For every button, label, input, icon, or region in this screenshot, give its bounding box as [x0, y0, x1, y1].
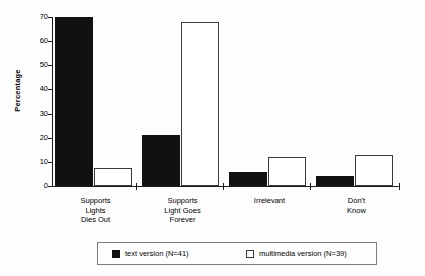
- y-axis-tick-label: 60: [40, 36, 48, 45]
- plot-area: [52, 17, 400, 186]
- x-axis-group-label: Supports Lights Dies Out: [52, 196, 139, 225]
- bar: [181, 22, 219, 186]
- y-axis-title: Percentage: [13, 56, 22, 126]
- legend-swatch-icon: [112, 250, 120, 258]
- bar: [55, 17, 93, 186]
- x-axis-separator: [136, 183, 137, 190]
- legend-swatch-icon: [246, 250, 254, 258]
- x-axis-separator: [223, 183, 224, 190]
- y-axis-tick-label: 30: [40, 109, 48, 118]
- bar: [355, 155, 393, 186]
- y-axis-tick-label: 40: [40, 84, 48, 93]
- legend-entry: text version (N=41): [112, 249, 189, 258]
- x-axis-line: [52, 186, 400, 187]
- bar: [268, 157, 306, 186]
- y-axis-tick-label: 50: [40, 60, 48, 69]
- x-axis-group-label: Don't Know: [313, 196, 400, 215]
- x-axis-separator: [399, 183, 400, 190]
- bar: [229, 172, 267, 186]
- bar-chart: Percentage 706050403020100 Supports Ligh…: [0, 0, 425, 276]
- x-axis-group-label: Irrelevant: [226, 196, 313, 206]
- y-axis-tick-label: 70: [40, 12, 48, 21]
- legend-entry: multimedia version (N=39): [246, 249, 347, 258]
- legend: text version (N=41)multimedia version (N…: [97, 242, 377, 265]
- y-axis-tick-label: 10: [40, 157, 48, 166]
- x-axis-separator: [310, 183, 311, 190]
- x-axis-group-label: Supports Light Goes Forever: [139, 196, 226, 225]
- bar: [94, 168, 132, 186]
- legend-label: text version (N=41): [125, 249, 189, 258]
- bar: [316, 176, 354, 186]
- bar: [142, 135, 180, 186]
- y-axis-tick-label: 20: [40, 133, 48, 142]
- legend-label: multimedia version (N=39): [259, 249, 347, 258]
